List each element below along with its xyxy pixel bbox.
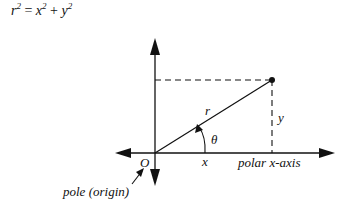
up-arrowhead-icon (150, 38, 160, 55)
label-pole-origin: pole (origin) (62, 184, 129, 199)
polar-coordinate-diagram: r θ x y O polar x-axis pole (origin) (0, 0, 356, 214)
down-arrowhead-icon (150, 169, 160, 186)
point-marker-icon (269, 77, 275, 83)
left-arrowhead-icon (115, 148, 131, 158)
label-y: y (276, 110, 284, 125)
label-origin: O (140, 155, 150, 170)
label-r: r (205, 103, 211, 118)
label-polar-x-axis: polar x-axis (237, 155, 300, 170)
label-theta: θ (211, 132, 218, 147)
label-x: x (201, 154, 208, 169)
right-arrowhead-icon (319, 148, 335, 158)
